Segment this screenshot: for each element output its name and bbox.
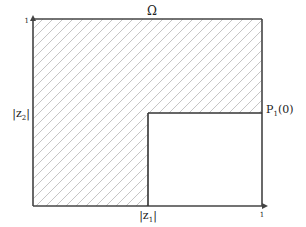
x-axis-max-tick: 1 bbox=[260, 211, 264, 219]
p1-point-label: P1(0) bbox=[266, 103, 293, 118]
z2-label: |z2| bbox=[12, 107, 30, 122]
y-axis-max-tick: 1 bbox=[25, 17, 29, 25]
hatch-line bbox=[0, 19, 73, 206]
hatch-line bbox=[0, 19, 163, 206]
y-axis-arrow-icon bbox=[30, 15, 36, 21]
omega-domain-diagram: 1 1 Ω |z2| |z1| P1(0) bbox=[0, 0, 306, 227]
x-axis-arrow-icon bbox=[262, 203, 268, 209]
omega-label: Ω bbox=[147, 4, 157, 18]
z1-label: |z1| bbox=[139, 209, 157, 224]
